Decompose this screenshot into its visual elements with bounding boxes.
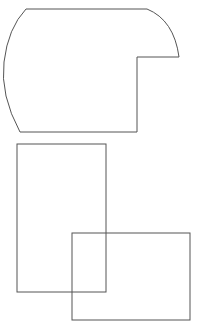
tall-rectangle: [17, 144, 106, 292]
diagram-canvas: [0, 0, 203, 332]
overlapping-rectangle: [72, 233, 190, 320]
rounded-notched-shape: [3, 9, 179, 132]
